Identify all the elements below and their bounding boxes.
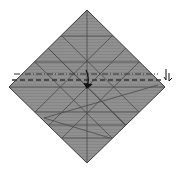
diagram-canvas xyxy=(0,0,176,169)
origami-diagram xyxy=(0,0,176,169)
turn-over-arrow-icon xyxy=(164,69,172,81)
